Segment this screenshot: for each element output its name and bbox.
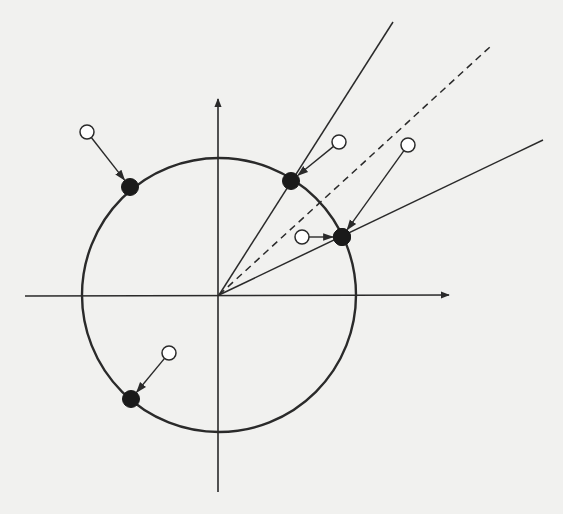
projection-2: [283, 135, 347, 190]
open-point-icon: [295, 230, 309, 244]
open-point-icon: [332, 135, 346, 149]
projection-arrow: [347, 151, 404, 230]
diagram-canvas: [0, 0, 563, 514]
projection-arrow: [91, 138, 124, 180]
filled-point-icon: [123, 391, 140, 408]
x-axis: [25, 295, 449, 296]
open-point-icon: [80, 125, 94, 139]
open-point-icon: [401, 138, 415, 152]
filled-point-icon: [334, 229, 351, 246]
center-ray: [219, 46, 491, 295]
projection-5: [123, 346, 177, 408]
projection-diagram: [0, 0, 563, 514]
projections-group: [80, 125, 415, 408]
open-point-icon: [162, 346, 176, 360]
projection-1: [80, 125, 139, 196]
filled-point-icon: [122, 179, 139, 196]
rays-group: [219, 22, 543, 295]
projection-arrow: [298, 146, 334, 175]
projection-arrow: [137, 358, 165, 392]
filled-point-icon: [283, 173, 300, 190]
projection-4: [295, 229, 351, 246]
coordinate-axes: [25, 99, 449, 492]
